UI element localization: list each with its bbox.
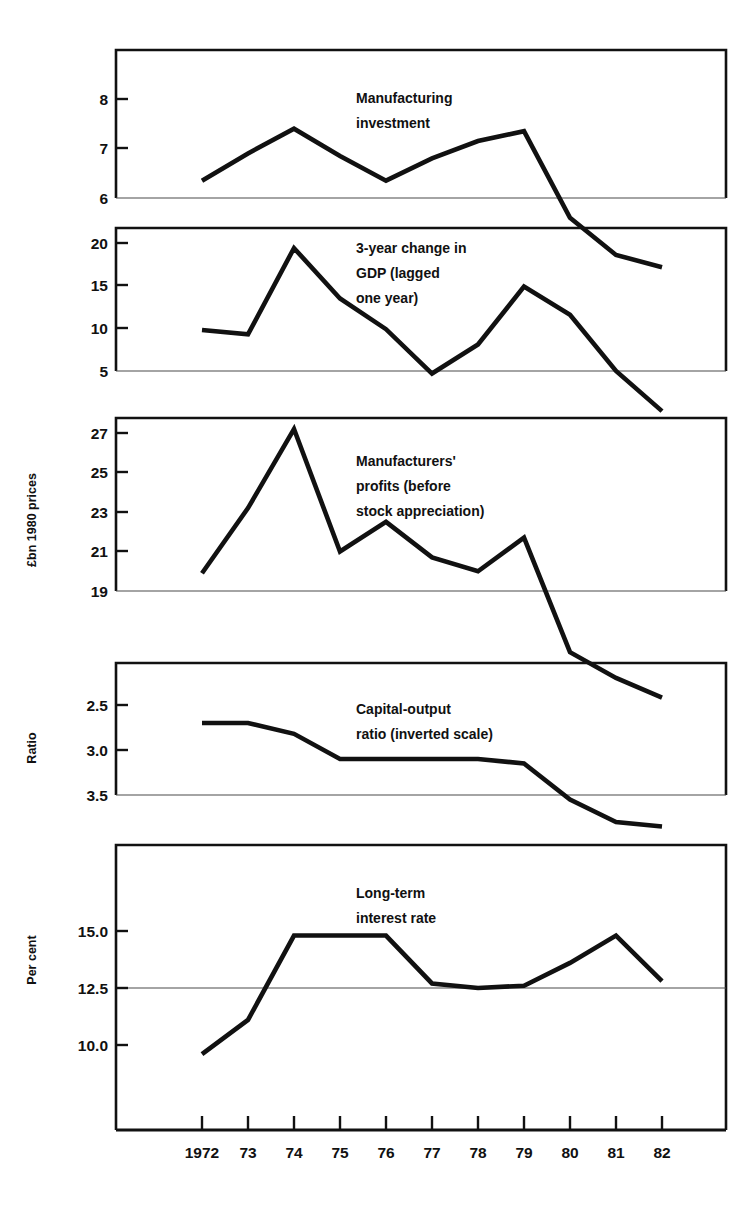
x-tick-label: 73 <box>239 1144 257 1161</box>
y-tick-label: 21 <box>91 543 109 560</box>
panel-capital-output-ratio: 2.5 3.0 3.5 Capital-output ratio (invert… <box>86 663 726 827</box>
y-tick-label: 23 <box>91 504 109 521</box>
annotation-line: profits (before <box>356 478 451 494</box>
y-tick-label: 27 <box>91 425 108 442</box>
panel-annotation: 3-year change in GDP (lagged one year) <box>356 240 467 306</box>
x-tick-label: 79 <box>515 1144 533 1161</box>
panel-y-tick-labels: 27 25 23 21 19 <box>91 425 109 600</box>
annotation-line: one year) <box>356 290 418 306</box>
panel-annotation: Manufacturers' profits (before stock app… <box>356 453 484 519</box>
panel-y-tick-labels: 15.0 12.5 10.0 <box>78 923 109 1054</box>
panel-y-ticks <box>116 99 128 148</box>
y-tick-label: 15.0 <box>78 923 108 940</box>
annotation-line: investment <box>356 115 430 131</box>
panel-gdp-3-year-change: 20 15 10 5 3-year change in GDP (lagged … <box>91 228 726 411</box>
x-tick-label: 80 <box>561 1144 578 1161</box>
series-line <box>202 936 662 1055</box>
x-tick-label: 78 <box>469 1144 487 1161</box>
panel-annotation: Capital-output ratio (inverted scale) <box>356 701 493 742</box>
y-tick-label: 15 <box>91 277 109 294</box>
y-tick-label: 10 <box>91 320 108 337</box>
axis-label-ratio: Ratio <box>25 732 39 764</box>
annotation-line: GDP (lagged <box>356 265 440 281</box>
chart-figure: £bn 1980 prices Ratio Per cent 8 7 6 Man… <box>0 0 754 1217</box>
axis-label-percent: Per cent <box>25 935 39 985</box>
panel-y-tick-labels: 2.5 3.0 3.5 <box>86 697 108 804</box>
x-tick-label: 81 <box>607 1144 625 1161</box>
y-tick-label: 3.0 <box>86 742 108 759</box>
series-line <box>202 429 662 698</box>
panel-y-tick-labels: 8 7 6 <box>99 91 108 207</box>
panel-manufacturing-investment: 8 7 6 Manufacturing investment <box>99 50 726 267</box>
x-tick-label: 76 <box>377 1144 395 1161</box>
x-tick-label: 82 <box>653 1144 670 1161</box>
x-tick-label: 74 <box>285 1144 303 1161</box>
panel-y-ticks <box>116 705 128 750</box>
y-tick-label: 20 <box>91 235 108 252</box>
y-tick-label: 3.5 <box>86 787 108 804</box>
x-axis-ticks <box>202 1116 662 1130</box>
multi-panel-line-chart: £bn 1980 prices Ratio Per cent 8 7 6 Man… <box>0 0 754 1217</box>
axis-label-gbp: £bn 1980 prices <box>25 473 39 567</box>
annotation-line: Manufacturing <box>356 90 452 106</box>
running-head <box>8 0 308 12</box>
annotation-line: stock appreciation) <box>356 503 484 519</box>
annotation-line: Long-term <box>356 885 425 901</box>
annotation-line: Manufacturers' <box>356 453 456 469</box>
panel-long-term-interest-rate: 15.0 12.5 10.0 Long-term interest rate <box>78 845 726 1130</box>
x-axis-tick-labels: 197273747576777879808182 <box>185 1144 671 1161</box>
panel-annotation: Manufacturing investment <box>356 90 452 131</box>
panel-annotation: Long-term interest rate <box>356 885 436 926</box>
x-tick-label: 77 <box>423 1144 440 1161</box>
annotation-line: Capital-output <box>356 701 451 717</box>
x-tick-label: 75 <box>331 1144 349 1161</box>
annotation-line: interest rate <box>356 910 436 926</box>
y-tick-label: 10.0 <box>78 1037 108 1054</box>
axis-group-labels: £bn 1980 prices Ratio Per cent <box>25 473 39 985</box>
annotation-line: 3-year change in <box>356 240 467 256</box>
panel-manufacturers-profits: 27 25 23 21 19 Manufacturers' profits (b… <box>91 418 726 698</box>
y-tick-label: 25 <box>91 464 109 481</box>
y-tick-label: 6 <box>99 190 108 207</box>
y-tick-label: 7 <box>99 140 108 157</box>
y-tick-label: 12.5 <box>78 980 109 997</box>
y-tick-label: 8 <box>99 91 108 108</box>
y-tick-label: 5 <box>99 363 108 380</box>
panel-y-ticks <box>116 433 128 551</box>
panel-y-ticks <box>116 243 128 328</box>
x-tick-label: 1972 <box>185 1144 219 1161</box>
y-tick-label: 2.5 <box>86 697 108 714</box>
annotation-line: ratio (inverted scale) <box>356 726 493 742</box>
panel-y-ticks <box>116 931 128 1045</box>
y-tick-label: 19 <box>91 583 109 600</box>
panel-y-tick-labels: 20 15 10 5 <box>91 235 109 380</box>
